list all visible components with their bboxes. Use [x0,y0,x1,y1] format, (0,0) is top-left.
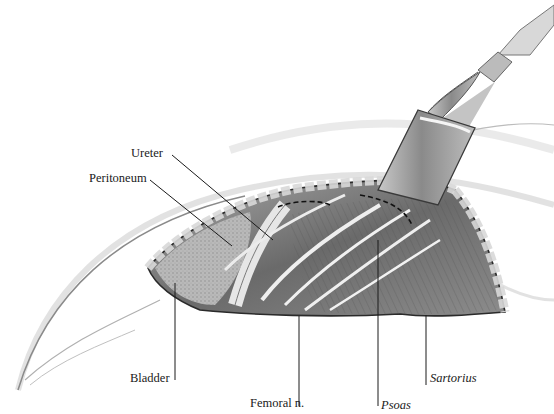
label-sartorius: Sartorius [430,371,477,385]
label-femoral-nerve: Femoral n. [250,396,304,410]
label-bladder: Bladder [130,371,170,385]
label-psoas: Psoas [381,398,411,412]
label-ureter: Ureter [131,146,163,160]
label-peritoneum: Peritoneum [89,171,147,185]
anatomical-illustration [0,0,554,414]
retractor [378,5,554,205]
